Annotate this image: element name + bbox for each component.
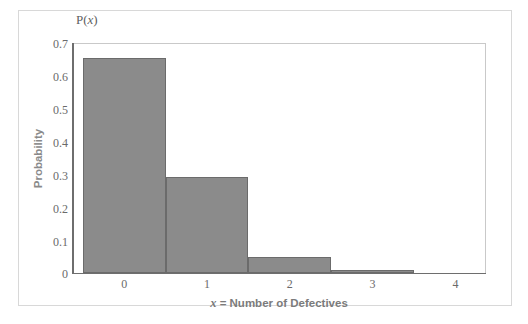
bar-x-0 [83, 58, 166, 274]
x-tick-label: 2 [270, 278, 310, 290]
bar-x-1 [166, 177, 249, 273]
x-tick-label: 1 [187, 278, 227, 290]
y-axis-title: Probability [30, 43, 46, 274]
bar-x-3 [331, 270, 414, 273]
x-tick-label: 3 [353, 278, 393, 290]
probability-histogram-figure: P(x) 0.7 0.6 0.5 0.4 0.3 0.2 0.1 0 0 1 2… [0, 0, 528, 324]
y-axis-symbol-label: P(x) [76, 12, 98, 28]
histogram-bars [72, 43, 486, 273]
bar-x-2 [248, 257, 331, 273]
x-tick-label: 0 [104, 278, 144, 290]
x-axis-tick-labels: 0 1 2 3 4 [72, 278, 486, 296]
x-tick-label: 4 [435, 278, 475, 290]
x-axis-title-rest: = Number of Defectives [216, 297, 347, 309]
x-axis-title: x = Number of Defectives [72, 296, 486, 311]
